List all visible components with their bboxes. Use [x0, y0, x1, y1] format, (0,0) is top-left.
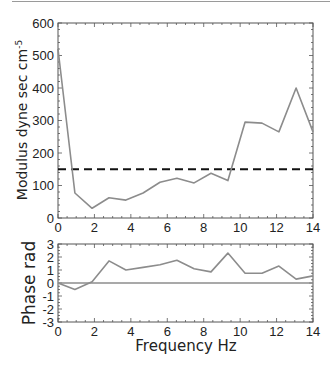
- x-tick-label: 12: [269, 324, 283, 339]
- y-tick-label: 600: [32, 16, 54, 31]
- x-tick-label: 6: [164, 220, 171, 235]
- y-tick-label: 400: [32, 81, 54, 96]
- y-tick-label: 0: [47, 211, 54, 226]
- y-tick-label: 300: [32, 113, 54, 128]
- modulus-line: [58, 49, 313, 208]
- y-tick-label: -3: [42, 315, 54, 330]
- phase-panel: 024681012143210-1-2-3: [42, 237, 320, 340]
- phase-axis-title: Phase rad: [19, 241, 39, 325]
- x-tick-label: 0: [54, 220, 61, 235]
- x-tick-label: 14: [306, 220, 320, 235]
- x-tick-label: 4: [127, 220, 134, 235]
- x-tick-label: 0: [54, 324, 61, 339]
- phase-line: [58, 253, 313, 289]
- frequency-axis-title: Frequency Hz: [135, 337, 237, 355]
- x-tick-label: 4: [127, 324, 134, 339]
- plot-frame: [58, 23, 313, 218]
- frequency-response-chart: 024681012140100200300400500600 024681012…: [0, 0, 334, 366]
- x-tick-label: 8: [200, 220, 207, 235]
- x-tick-label: 10: [233, 220, 247, 235]
- y-tick-label: 500: [32, 48, 54, 63]
- x-tick-label: 12: [269, 220, 283, 235]
- y-tick-label: 200: [32, 146, 54, 161]
- x-tick-label: 2: [91, 324, 98, 339]
- modulus-axis-title: Modulus dyne sec cm-5: [14, 40, 30, 200]
- x-tick-label: 14: [306, 324, 320, 339]
- x-tick-label: 2: [91, 220, 98, 235]
- y-tick-label: 100: [32, 178, 54, 193]
- modulus-panel: 024681012140100200300400500600: [32, 16, 320, 236]
